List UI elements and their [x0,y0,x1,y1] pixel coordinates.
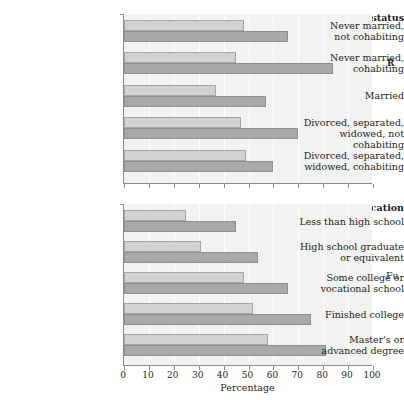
bar-light [124,272,244,283]
axis-tick [199,184,200,188]
x-axis-tick-labels: 0102030405060708090100 [123,370,372,382]
bar-dark [124,31,288,42]
category-label: Never married, cohabiting [286,52,404,74]
bar-light [124,52,236,63]
axis-tick [224,184,225,188]
category-label: Divorced, separated, widowed, not cohabi… [286,117,404,150]
bar-dark [124,161,273,172]
bar-dark [124,252,258,263]
category-axis-cap-marital [120,14,124,15]
axis-tick [273,184,274,188]
bar-dark [124,283,288,294]
chart-figure: R Fu Marital status Education 0102030405… [0,0,404,400]
x-tick-label: 0 [112,370,134,380]
x-tick-label: 100 [361,370,383,380]
x-tick-label: 10 [137,370,159,380]
x-tick-label: 30 [187,370,209,380]
bar-light [124,241,201,252]
axis-tick [373,184,374,188]
bar-light [124,20,244,31]
axis-tick [149,184,150,188]
bar-dark [124,221,236,232]
x-tick-label: 80 [311,370,333,380]
bar-light [124,117,241,128]
x-tick-label: 50 [237,370,259,380]
bar-light [124,210,186,221]
x-axis-ticks-marital [124,184,372,188]
x-tick-label: 90 [336,370,358,380]
bar-light [124,85,216,96]
category-label: Never married, not cohabiting [286,20,404,42]
axis-tick [124,184,125,188]
category-label: High school graduate or equivalent [286,241,404,263]
axis-tick [174,184,175,188]
x-tick-label: 20 [162,370,184,380]
bar-light [124,303,253,314]
x-axis-title: Percentage [123,382,372,393]
category-label: Less than high school [286,216,404,227]
bar-light [124,150,246,161]
x-tick-label: 70 [286,370,308,380]
axis-tick [348,184,349,188]
category-label: Some college or vocational school [286,272,404,294]
bar-dark [124,128,298,139]
axis-tick [323,184,324,188]
bar-light [124,334,268,345]
category-label: Married [286,90,404,101]
category-label: Divorced, separated, widowed, cohabiting [286,150,404,172]
bar-dark [124,96,266,107]
category-axis-cap-education [120,204,124,205]
axis-tick [249,184,250,188]
x-tick-label: 60 [261,370,283,380]
x-tick-label: 40 [212,370,234,380]
category-label: Master's or advanced degree [286,334,404,356]
bar-dark [124,314,311,325]
category-label: Finished college [286,309,404,320]
axis-tick [298,184,299,188]
